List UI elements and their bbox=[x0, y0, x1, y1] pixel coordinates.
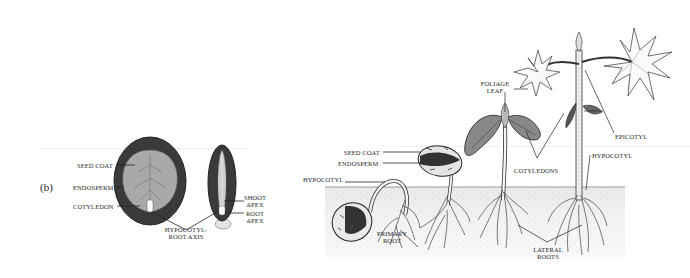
label-foliage-leaf-line2: LEAF bbox=[478, 87, 512, 94]
seed-edge-view bbox=[208, 145, 236, 229]
label-primary-root-line1: PRIMARY bbox=[374, 230, 410, 237]
label-shoot-apex: SHOOT APEX bbox=[244, 194, 266, 208]
label-primary-root-line2: ROOT bbox=[374, 237, 410, 244]
label-endosperm: ENDOSPERM bbox=[73, 184, 113, 191]
label-endosperm-germ: ENDOSPERM bbox=[338, 160, 378, 167]
label-lateral-roots-line1: LATERAL bbox=[530, 246, 566, 253]
foliage-leaf-large bbox=[604, 28, 672, 100]
label-hypocotyl-root-axis-line1: HYPOCOTYL- bbox=[162, 226, 210, 233]
label-cotyledon: COTYLEDON bbox=[73, 203, 114, 210]
label-root-apex: ROOT APEX bbox=[244, 210, 266, 224]
label-lateral-roots: LATERAL ROOTS bbox=[530, 246, 566, 260]
diagram-artwork bbox=[0, 0, 690, 278]
label-lateral-roots-line2: ROOTS bbox=[530, 253, 566, 260]
label-shoot-apex-line2: APEX bbox=[244, 201, 266, 208]
label-hypocotyl-left: HYPOCOTYL bbox=[303, 176, 343, 183]
seed-face-view bbox=[114, 137, 186, 225]
label-hypocotyl-root-axis: HYPOCOTYL- ROOT AXIS bbox=[162, 226, 210, 240]
label-root-apex-line1: ROOT bbox=[244, 210, 266, 217]
label-shoot-apex-line1: SHOOT bbox=[244, 194, 266, 201]
label-root-apex-line2: APEX bbox=[244, 217, 266, 224]
panel-letter: (b) bbox=[40, 181, 53, 193]
label-foliage-leaf: FOLIAGE LEAF bbox=[478, 80, 512, 94]
label-hypocotyl-right: HYPOCOTYL bbox=[592, 152, 632, 159]
label-epicotyl: EPICOTYL bbox=[615, 133, 647, 140]
label-primary-root: PRIMARY ROOT bbox=[374, 230, 410, 244]
label-foliage-leaf-line1: FOLIAGE bbox=[478, 80, 512, 87]
label-hypocotyl-root-axis-line2: ROOT AXIS bbox=[162, 233, 210, 240]
label-seed-coat-germ: SEED COAT bbox=[344, 149, 380, 156]
label-seed-coat: SEED COAT bbox=[77, 162, 113, 169]
label-cotyledons: COTYLEDONS bbox=[514, 167, 558, 174]
